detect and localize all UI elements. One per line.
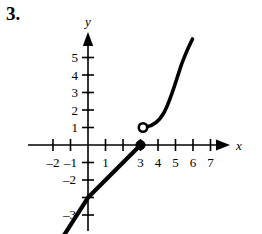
curve-branch-path: [146, 39, 193, 127]
y-tick-label: 2: [72, 103, 79, 118]
x-axis-label: x: [235, 138, 242, 153]
y-axis-label: y: [83, 14, 91, 29]
x-tick-label: 1: [102, 155, 109, 170]
axes-group: [28, 32, 230, 231]
y-tick-label: 4: [72, 68, 79, 83]
y-tick-label-group: –3 –2 1 2 3 4 5: [62, 50, 79, 222]
y-axis-arrowhead: [83, 32, 93, 46]
problem-number-label: 3.: [6, 4, 20, 23]
y-tick-label: 1: [72, 120, 79, 135]
coordinate-plane-svg: –2 –1 1 3 4 5 6 7 –3 –2 1 2 3 4 5 x y: [0, 0, 262, 234]
graph-figure: 3.: [0, 0, 262, 234]
closed-endpoint-marker: [136, 140, 145, 149]
x-tick-label: 6: [190, 155, 197, 170]
y-tick-label: 3: [72, 85, 79, 100]
x-tick-label: 5: [172, 155, 179, 170]
y-tick-label: 5: [72, 50, 79, 65]
y-tick-label: –2: [62, 172, 76, 187]
x-tick-label: 7: [207, 155, 214, 170]
x-tick-label: 3: [137, 155, 144, 170]
x-axis-arrowhead: [216, 140, 230, 151]
x-tick-label: –2: [46, 155, 60, 170]
x-tick-label: 4: [155, 155, 162, 170]
x-tick-label: –1: [63, 155, 77, 170]
open-endpoint-marker: [139, 123, 147, 131]
